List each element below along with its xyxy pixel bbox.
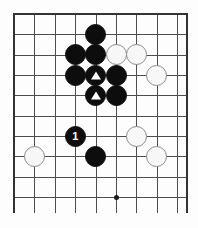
triangle-marker-icon	[91, 71, 101, 79]
white-stone-f	[24, 146, 45, 167]
triangle-marker-icon	[91, 92, 101, 100]
black-stone-g	[85, 146, 106, 167]
stone-move-number: 1	[66, 127, 85, 146]
grid-line-vertical	[177, 14, 178, 213]
black-stone-e	[106, 65, 127, 86]
black-stone-marked-lower	[85, 85, 106, 106]
black-stone-a	[85, 24, 106, 45]
black-stone-move-1: 1	[65, 126, 86, 147]
grid-line-horizontal	[14, 116, 187, 117]
star-point-lower	[114, 195, 119, 200]
black-stone-marked-upper	[85, 65, 106, 86]
white-stone-d	[126, 126, 147, 147]
board-edge-right	[186, 13, 188, 213]
board-edge-left	[13, 13, 15, 213]
black-stone-b	[85, 44, 106, 65]
black-stone-f	[106, 85, 127, 106]
grid-line-horizontal	[14, 177, 187, 178]
black-stone-d	[65, 65, 86, 86]
go-board-diagram: 1	[0, 0, 198, 228]
grid-line-vertical	[55, 14, 56, 213]
grid-line-vertical	[157, 14, 158, 213]
grid-line-horizontal	[14, 136, 187, 137]
white-stone-a	[106, 44, 127, 65]
white-stone-c	[146, 65, 167, 86]
white-stone-e	[146, 146, 167, 167]
grid-line-vertical	[34, 14, 35, 213]
grid-line-horizontal	[14, 197, 187, 198]
black-stone-c	[65, 44, 86, 65]
board-edge-top	[13, 13, 188, 15]
white-stone-b	[126, 44, 147, 65]
